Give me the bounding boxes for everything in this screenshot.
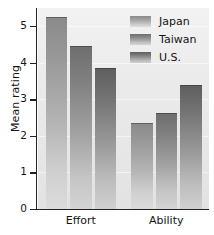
y-axis-tick: 1 (30, 172, 37, 173)
bar-japan-ability (131, 123, 153, 209)
legend-label: Taiwan (159, 34, 196, 45)
legend-item-japan: Japan (130, 13, 196, 30)
bar-top-edge (95, 68, 117, 69)
legend-label: Japan (159, 16, 190, 27)
y-axis-tick-label: 1 (20, 165, 27, 177)
y-axis-tick: 5 (30, 26, 37, 27)
legend-swatch (130, 52, 151, 63)
bar-us-effort (95, 68, 117, 209)
legend-item-taiwan: Taiwan (130, 31, 196, 48)
y-axis-tick-label: 0 (20, 202, 27, 214)
legend-item-us: U.S. (130, 49, 196, 66)
x-axis-tick-label-ability: Ability (124, 214, 210, 227)
bar-top-edge (70, 46, 92, 47)
bar-japan-effort (46, 17, 68, 209)
y-axis-tick: 4 (30, 63, 37, 64)
y-axis-tick: 0 (30, 209, 37, 210)
y-axis-tick: 2 (30, 136, 37, 137)
y-axis-tick-label: 3 (20, 92, 27, 104)
legend-swatch (130, 34, 151, 45)
bar-chart-figure: Mean rating 012345 EffortAbility JapanTa… (0, 0, 214, 235)
bar-top-edge (180, 85, 202, 86)
x-axis-tick-label-effort: Effort (38, 214, 124, 227)
y-axis-line (36, 8, 37, 210)
y-axis-tick-label: 4 (20, 56, 27, 68)
bar-taiwan-ability (156, 113, 178, 209)
y-axis-tick-label: 5 (20, 19, 27, 31)
legend-swatch (130, 16, 151, 27)
legend-label: U.S. (159, 52, 181, 63)
bar-top-edge (131, 123, 153, 124)
bar-us-ability (180, 85, 202, 209)
y-axis-tick-label: 2 (20, 129, 27, 141)
chart-legend: JapanTaiwanU.S. (130, 13, 196, 67)
bar-taiwan-effort (70, 46, 92, 209)
y-axis-tick: 3 (30, 99, 37, 100)
bar-top-edge (46, 17, 68, 18)
bar-top-edge (156, 113, 178, 114)
x-axis-line (36, 209, 209, 210)
